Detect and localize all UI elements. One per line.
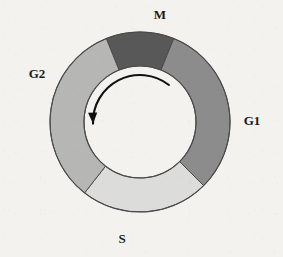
segment-label-m: M <box>154 7 166 22</box>
segment-label-g2: G2 <box>29 66 46 81</box>
segment-label-g1: G1 <box>244 113 261 128</box>
cell-cycle-figure: M G1 S G2 <box>0 0 283 257</box>
cycle-direction-arrow-arc <box>93 75 169 124</box>
segment-label-s: S <box>118 231 125 246</box>
cycle-direction-arrowhead <box>88 112 97 123</box>
donut-segments <box>50 32 230 212</box>
inner-ring-outline <box>84 66 196 178</box>
cell-cycle-donut-chart: M G1 S G2 <box>0 0 283 257</box>
